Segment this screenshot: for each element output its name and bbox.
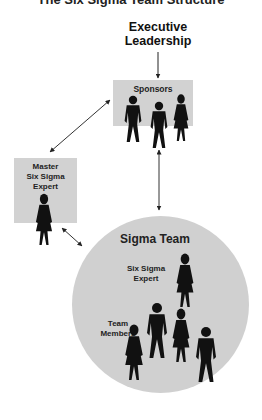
connectors-and-figures (0, 0, 262, 420)
sponsor-figures (125, 94, 189, 148)
master-team-arrow (62, 228, 82, 246)
six-sigma-expert-figure (177, 254, 194, 307)
sponsors-master-arrow (50, 100, 110, 152)
team-member-figures (125, 303, 216, 382)
master-expert-figure (36, 194, 52, 245)
